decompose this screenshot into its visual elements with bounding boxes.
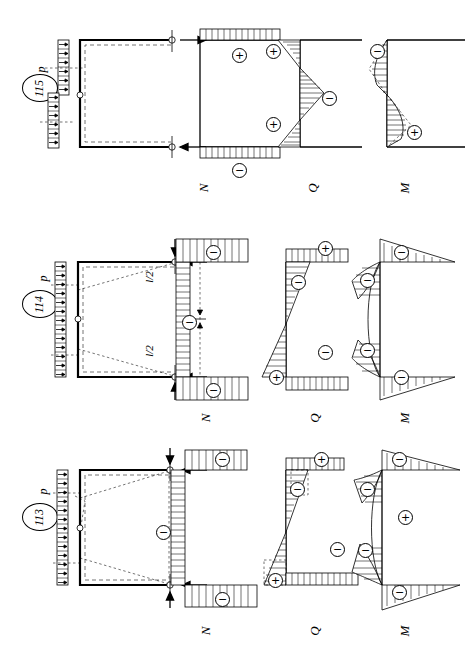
axis-label-M-113: M bbox=[400, 623, 411, 639]
sign-minus: − bbox=[360, 482, 375, 497]
sign-minus: − bbox=[322, 91, 337, 106]
frame-c-shape bbox=[80, 40, 172, 147]
m-tri-bottom bbox=[380, 377, 455, 400]
axis-label-N-114: N bbox=[202, 410, 211, 426]
load-strip-lower bbox=[48, 93, 59, 148]
sign-minus: − bbox=[206, 383, 221, 398]
load-strip bbox=[57, 470, 68, 585]
sign-minus: − bbox=[394, 370, 409, 385]
case-row-114: 114 p bbox=[0, 215, 469, 430]
sign-minus: − bbox=[156, 525, 171, 540]
hinge-mid-column bbox=[75, 316, 81, 322]
sign-minus: − bbox=[182, 315, 197, 330]
sign-plus: + bbox=[318, 241, 333, 256]
diagram-M-114 bbox=[350, 237, 469, 412]
q-area-plus-lower bbox=[262, 324, 286, 377]
axis-label-text: N bbox=[196, 184, 212, 193]
sign-minus: − bbox=[215, 452, 230, 467]
axis-label-text: M bbox=[397, 183, 413, 194]
sign-plus: + bbox=[266, 44, 281, 59]
sign-plus: + bbox=[398, 510, 413, 525]
q-flange-bottom-minus bbox=[286, 573, 358, 585]
sign-minus: − bbox=[358, 543, 373, 558]
axis-label-N-113: N bbox=[202, 623, 211, 639]
axis-label-text: N bbox=[198, 414, 214, 423]
dimension-label-lower-114: l/2 bbox=[143, 345, 155, 357]
figure-page: 115 p bbox=[0, 0, 469, 646]
axis-label-Q-114: Q bbox=[310, 410, 319, 426]
q-area-plus-top bbox=[278, 40, 300, 68]
axis-label-text: M bbox=[397, 413, 413, 424]
load-strip bbox=[55, 262, 66, 377]
sign-minus: − bbox=[360, 343, 375, 358]
q-area-plus-bottom bbox=[278, 120, 300, 147]
axis-label-text: Q bbox=[305, 183, 321, 192]
m-area-plus-bottom bbox=[387, 95, 403, 147]
diagram-M-113 bbox=[350, 448, 469, 623]
sign-minus: − bbox=[360, 273, 375, 288]
sign-minus: − bbox=[394, 245, 409, 260]
axis-label-text: Q bbox=[307, 626, 323, 635]
load-strip-upper bbox=[58, 40, 69, 95]
frame-c-shape bbox=[78, 262, 175, 377]
n-web bbox=[171, 470, 185, 585]
sign-plus: + bbox=[269, 370, 284, 385]
dimension-text: l/2 bbox=[143, 345, 155, 357]
sign-minus: − bbox=[291, 275, 306, 290]
hinge-mid-column bbox=[77, 525, 83, 531]
q-area-minus-upper bbox=[286, 262, 310, 324]
case-row-113: 113 p bbox=[0, 430, 469, 645]
sign-minus: − bbox=[290, 482, 305, 497]
axis-label-Q-115: Q bbox=[308, 180, 317, 196]
sign-minus: − bbox=[370, 44, 385, 59]
q-flange-bottom-minus bbox=[286, 377, 348, 390]
axis-label-M-115: M bbox=[400, 180, 411, 196]
sign-minus: − bbox=[392, 585, 407, 600]
sign-plus: + bbox=[407, 125, 422, 140]
axis-label-N-115: N bbox=[200, 180, 209, 196]
sign-minus: − bbox=[330, 542, 345, 557]
sign-minus: − bbox=[215, 592, 230, 607]
sign-plus: + bbox=[268, 573, 283, 588]
dimension-label-upper-114: l/2 bbox=[143, 271, 155, 283]
axis-label-M-114: M bbox=[400, 410, 411, 426]
q-flange-top-plus bbox=[286, 249, 348, 262]
hinge-mid-column bbox=[77, 92, 83, 98]
sign-minus: − bbox=[232, 163, 247, 178]
sign-minus: − bbox=[392, 452, 407, 467]
q-area-minus-upper bbox=[286, 470, 308, 532]
case-row-115: 115 p bbox=[0, 0, 469, 215]
sign-minus: − bbox=[318, 345, 333, 360]
axis-label-text: N bbox=[198, 627, 214, 636]
sign-minus: − bbox=[206, 245, 221, 260]
sign-plus: + bbox=[266, 117, 281, 132]
sign-plus: + bbox=[232, 48, 247, 63]
dimension-text: l/2 bbox=[143, 271, 155, 283]
axis-label-text: M bbox=[397, 626, 413, 637]
axis-label-Q-113: Q bbox=[310, 623, 319, 639]
m-tri-top bbox=[380, 239, 455, 262]
axis-label-text: Q bbox=[307, 413, 323, 422]
sign-plus: + bbox=[314, 452, 329, 467]
